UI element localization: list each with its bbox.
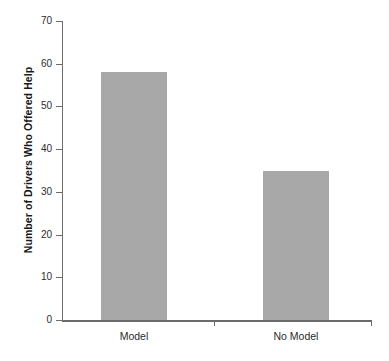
y-axis-tick [56,320,62,321]
y-axis-tick-label: 10 [24,272,52,282]
bar-model [101,72,167,320]
bar-no-model [263,171,329,321]
y-axis-tick-label: 70 [24,16,52,26]
x-axis-category-label: No Model [236,331,356,342]
y-axis-tick [56,235,62,236]
y-axis-line [62,21,63,321]
y-axis-tick [56,149,62,150]
y-axis-tick [56,21,62,22]
y-axis-tick-label: 30 [24,187,52,197]
x-axis-tick [371,321,372,326]
bar-chart-figure: Number of Drivers Who Offered Help 01020… [0,0,389,361]
x-axis-category-label: Model [74,331,194,342]
y-axis-tick-label: 40 [24,144,52,154]
x-axis-tick [214,321,215,326]
y-axis-tick [56,192,62,193]
y-axis-tick-label: 0 [24,315,52,325]
y-axis-tick [56,106,62,107]
y-axis-tick-label: 60 [24,59,52,69]
y-axis-tick [56,277,62,278]
cropped-caption-sliver [6,354,306,361]
y-axis-tick [56,64,62,65]
y-axis-tick-label: 20 [24,230,52,240]
x-axis-line [62,320,372,322]
y-axis-tick-label: 50 [24,101,52,111]
